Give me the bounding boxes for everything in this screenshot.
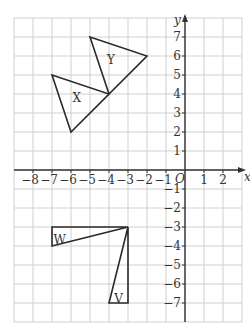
triangles: XYWV: [52, 37, 147, 306]
triangle-label-v: V: [113, 292, 123, 306]
coordinate-plane: −8−7−6−5−4−3−2−1127654321−1−2−3−4−5−6−7x…: [0, 0, 250, 333]
x-tick-label: −6: [59, 173, 77, 187]
y-tick-label: −5: [163, 258, 181, 272]
x-tick-label: −2: [135, 173, 153, 187]
y-tick-label: 2: [173, 125, 181, 139]
y-axis-label: y: [173, 13, 181, 27]
x-tick-label: −7: [40, 173, 58, 187]
x-tick-label: −3: [116, 173, 134, 187]
y-tick-label: −4: [163, 239, 181, 253]
y-tick-label: 7: [173, 30, 181, 44]
origin-label: O: [175, 172, 185, 186]
y-tick-label: 5: [173, 68, 181, 82]
triangle-label-w: W: [53, 233, 66, 247]
y-tick-label: 1: [173, 144, 181, 158]
axes: [14, 14, 246, 322]
x-tick-label: −4: [97, 173, 115, 187]
x-tick-label: −8: [21, 173, 39, 187]
coordinate-grid-diagram: −8−7−6−5−4−3−2−1127654321−1−2−3−4−5−6−7x…: [0, 0, 250, 333]
y-tick-label: −3: [163, 220, 181, 234]
y-tick-label: 3: [173, 106, 181, 120]
triangle-label-x: X: [72, 91, 81, 105]
x-axis-label: x: [244, 170, 250, 184]
y-tick-label: −7: [163, 296, 181, 310]
x-tick-label: −5: [78, 173, 96, 187]
y-tick-label: −2: [163, 201, 181, 215]
y-tick-label: 6: [173, 49, 181, 63]
triangle-y: [90, 37, 147, 94]
x-tick-label: 2: [219, 173, 227, 187]
x-tick-label: 1: [200, 173, 208, 187]
y-tick-label: −6: [163, 277, 181, 291]
y-tick-label: 4: [173, 87, 181, 101]
triangle-label-y: Y: [106, 53, 116, 67]
